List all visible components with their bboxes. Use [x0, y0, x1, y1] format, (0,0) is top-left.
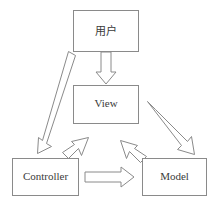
- node-view[interactable]: View: [74, 86, 139, 124]
- node-controller-label: Controller: [23, 170, 69, 182]
- node-user-label: 用户: [95, 24, 117, 38]
- node-model-label: Model: [160, 170, 189, 182]
- edge-view-to-model: [148, 102, 195, 155]
- diagram-canvas: 用户 View Controller Model: [0, 0, 218, 209]
- edge-controller-to-view: [63, 138, 89, 159]
- node-model[interactable]: Model: [143, 159, 207, 196]
- mvc-diagram: 用户 View Controller Model: [0, 0, 218, 209]
- edge-controller-to-model: [85, 167, 134, 187]
- edge-user-to-view: [96, 52, 116, 84]
- node-user[interactable]: 用户: [74, 11, 139, 52]
- edge-user-to-controller: [38, 52, 76, 154]
- node-view-label: View: [94, 97, 117, 109]
- node-controller[interactable]: Controller: [13, 159, 79, 196]
